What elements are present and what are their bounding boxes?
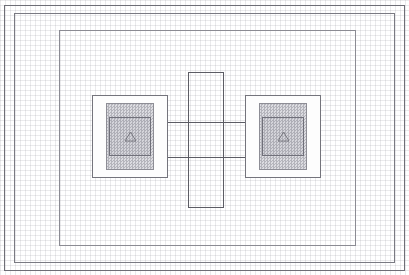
device-left-active[interactable]: [109, 117, 151, 156]
triangle-icon: [277, 131, 290, 142]
metal-route-upper[interactable]: [155, 122, 253, 123]
metal-route-lower[interactable]: [155, 157, 253, 158]
layout-canvas[interactable]: PMOS Device NMOS Device: [0, 0, 409, 275]
poly-gate-rect[interactable]: [188, 72, 224, 208]
triangle-icon: [124, 131, 137, 142]
device-right-active[interactable]: [262, 117, 304, 156]
